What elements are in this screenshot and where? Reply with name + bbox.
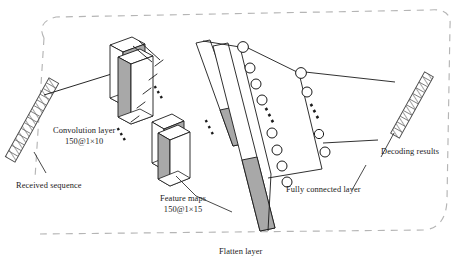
fc-column-2-ellipsis	[310, 103, 320, 119]
feature-map-block-b	[158, 125, 190, 186]
conv-ellipsis	[154, 85, 163, 98]
figure-canvas: Convolution layer 150@1×10 Received sequ…	[0, 0, 462, 265]
feature-maps-label: Feature maps 150@1×15	[160, 194, 206, 215]
decoding-results-label: Decoding results	[381, 147, 439, 157]
received-sequence-label: Received sequence	[16, 181, 82, 191]
received-sequence-bar	[5, 78, 58, 162]
flatten-layer-label: Flatten layer	[219, 247, 262, 257]
convolution-layer-label: Convolution layer 150@1×10	[53, 126, 115, 147]
feature-maps-title: Feature maps	[160, 194, 206, 205]
feature-map-ellipsis	[117, 127, 126, 140]
flatten-bar-front	[213, 43, 275, 231]
conv-block-b	[118, 49, 153, 124]
fc-column-1-ellipsis	[265, 107, 275, 123]
feature-maps-shape: 150@1×15	[160, 205, 206, 216]
decoding-results-bar	[391, 72, 434, 138]
convolution-layer-shape: 150@1×10	[53, 137, 115, 148]
convolution-layer-title: Convolution layer	[53, 126, 115, 137]
fully-connected-layer-label: Fully connected layer	[286, 185, 361, 195]
flatten-ellipsis	[205, 119, 214, 134]
